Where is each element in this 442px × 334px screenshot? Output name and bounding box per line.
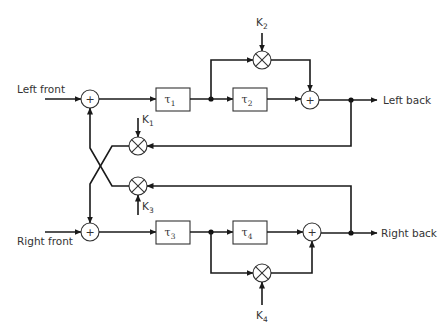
plus-icon: + <box>307 226 316 239</box>
summer-1: + <box>81 90 99 108</box>
plus-icon: + <box>85 226 94 239</box>
multiplier-k4 <box>253 264 271 282</box>
right-back-label: Right back <box>381 227 438 239</box>
plus-icon: + <box>85 93 94 106</box>
delay-block-tau1: τ1 <box>156 88 190 111</box>
cross-feed: K1 K3 <box>90 108 154 223</box>
multiplier-k1 <box>129 137 147 155</box>
multiplier-k2 <box>253 51 271 69</box>
delay-block-tau4: τ4 <box>233 221 267 244</box>
delay-block-tau3: τ3 <box>156 221 190 244</box>
k1-label: K1 <box>142 113 154 128</box>
summer-2: + <box>301 91 319 109</box>
k2-label: K2 <box>256 16 268 31</box>
wire <box>271 241 312 273</box>
left-front-label: Left front <box>17 83 65 95</box>
summer-4: + <box>303 223 321 241</box>
right-channel: Right front + τ3 K4 τ4 + <box>17 186 438 324</box>
multiplier-k3 <box>129 177 147 195</box>
signal-flow-diagram: Left front + τ1 K2 τ2 <box>0 0 442 334</box>
left-back-label: Left back <box>383 94 432 106</box>
right-front-label: Right front <box>17 235 73 247</box>
summer-3: + <box>81 223 99 241</box>
left-channel: Left front + τ1 K2 τ2 <box>17 16 432 146</box>
k3-label: K3 <box>142 200 154 215</box>
k4-label: K4 <box>256 309 268 324</box>
delay-block-tau2: τ2 <box>233 88 267 111</box>
wire <box>271 60 310 91</box>
plus-icon: + <box>305 94 314 107</box>
